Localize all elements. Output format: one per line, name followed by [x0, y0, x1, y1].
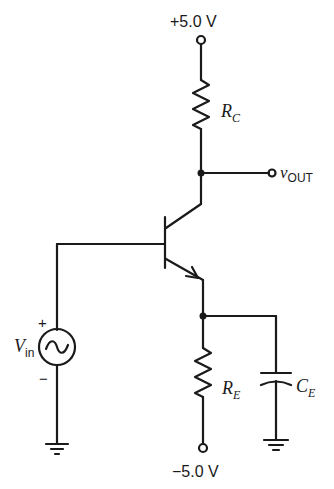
- emitter-resistor: [195, 348, 211, 397]
- vout-label: vOUT: [280, 163, 314, 185]
- svg-text:+: +: [38, 314, 47, 331]
- supply-negative-label: −5.0 V: [172, 463, 219, 480]
- re-label: RE: [221, 378, 241, 402]
- ce-label: CE: [296, 376, 316, 400]
- ground-icon: [264, 440, 288, 450]
- supply-positive-label: +5.0 V: [170, 13, 217, 30]
- circuit-diagram: +5.0 V RC vOUT + − Vin RE −5.0 V CE: [0, 0, 334, 489]
- sine-icon: [46, 341, 68, 353]
- collector-resistor: [193, 80, 209, 129]
- ground-icon: [46, 444, 68, 454]
- supply-negative-terminal: [199, 444, 207, 452]
- rc-label: RC: [220, 101, 241, 125]
- svg-text:−: −: [39, 370, 48, 387]
- output-terminal: [269, 170, 276, 177]
- supply-positive-terminal: [197, 36, 205, 44]
- vin-label: Vin: [14, 336, 34, 360]
